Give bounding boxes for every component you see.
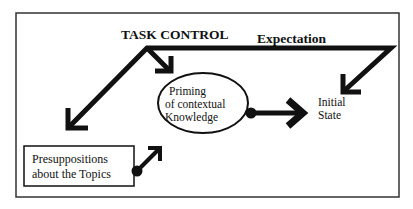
priming-line-2: of contextual xyxy=(165,98,225,110)
initial-state-line-1: Initial xyxy=(318,96,345,108)
task-control-title: TASK CONTROL xyxy=(121,27,228,42)
expectation-label: Expectation xyxy=(257,31,326,46)
presuppositions-line-1: Presuppositions xyxy=(32,152,108,166)
priming-line-3: Knowledge xyxy=(165,111,218,124)
arrow-to-priming xyxy=(147,48,171,71)
arrow-presuppositions-to-priming xyxy=(137,149,159,171)
presuppositions-line-2: about the Topics xyxy=(32,167,111,181)
priming-line-1: Priming xyxy=(169,85,206,98)
task-control-diagram: TASK CONTROL Expectation Priming of cont… xyxy=(0,0,413,209)
initial-state-line-2: State xyxy=(318,109,341,121)
